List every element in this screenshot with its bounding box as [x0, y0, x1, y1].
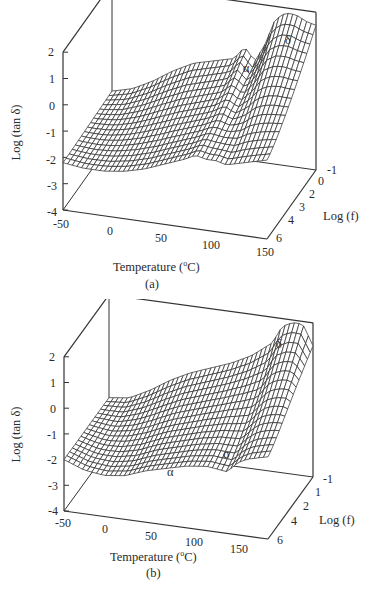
- panel-caption: (a): [145, 278, 159, 291]
- z-tick: -1: [327, 164, 337, 176]
- x-tick: 100: [202, 239, 220, 251]
- z-tick: 6: [276, 232, 282, 244]
- x-tick: 50: [155, 232, 167, 244]
- y-tick: 1: [50, 377, 56, 389]
- x-tick: 150: [230, 543, 248, 555]
- z-tick: -1: [323, 473, 333, 485]
- y-tick: -3: [48, 480, 58, 492]
- y-tick: -3: [47, 180, 57, 192]
- z-tick: 1: [315, 486, 321, 498]
- z-tick: 2: [309, 188, 315, 200]
- x-tick: -50: [53, 218, 69, 230]
- z-tick: 6: [277, 534, 283, 546]
- delta-annotation: δ: [285, 33, 291, 48]
- x-axis-label-unit: C): [184, 550, 197, 564]
- x-tick: -50: [55, 517, 71, 529]
- x-tick: 0: [102, 523, 108, 535]
- y-axis-label: Log (tan δ): [9, 105, 24, 161]
- chart-panel-b: Log (tan δ) 2 1 0 -1 -2 -3 -4 -50 0 50 1…: [0, 299, 377, 598]
- alpha-annotation: α: [167, 465, 174, 480]
- alpha-annotation: α: [243, 61, 250, 76]
- x-axis-label-text: Temperature (: [110, 550, 180, 564]
- x-axis-label: Temperature (oC): [113, 260, 200, 274]
- x-tick: 0: [107, 225, 113, 237]
- y-tick: 1: [49, 73, 55, 85]
- z-tick: 0: [318, 175, 324, 187]
- x-tick: 150: [256, 246, 274, 258]
- panel-caption: (b): [146, 567, 161, 580]
- z-tick: 4: [291, 515, 297, 527]
- delta-annotation: δ: [276, 337, 282, 352]
- y-tick: -2: [46, 154, 56, 166]
- x-tick: 50: [145, 530, 157, 542]
- chart-panel-a: Log (tan δ) 2 1 0 -1 -2 -3 -4 -50 0 50 1…: [0, 0, 377, 299]
- x-axis-label-text: Temperature (: [113, 260, 183, 274]
- z-tick: 4: [288, 214, 294, 226]
- y-tick: 0: [49, 100, 55, 112]
- y-axis-label: Log (tan δ): [9, 407, 24, 463]
- sigma-annotation: σ: [223, 447, 230, 462]
- x-axis-label: Temperature (oC): [110, 550, 197, 564]
- y-tick: 2: [48, 46, 54, 58]
- z-tick: 3: [299, 201, 305, 213]
- y-tick: -1: [46, 127, 56, 139]
- z-axis-label: Log (f): [319, 514, 355, 527]
- surface-plot-a: [0, 0, 377, 299]
- x-tick: 100: [185, 536, 203, 548]
- y-tick: -2: [47, 454, 57, 466]
- y-tick: 2: [49, 351, 55, 363]
- z-axis-label: Log (f): [323, 210, 359, 223]
- z-tick: 2: [303, 500, 309, 512]
- y-tick: 0: [50, 403, 56, 415]
- y-tick: -1: [47, 429, 57, 441]
- x-axis-label-unit: C): [187, 260, 200, 274]
